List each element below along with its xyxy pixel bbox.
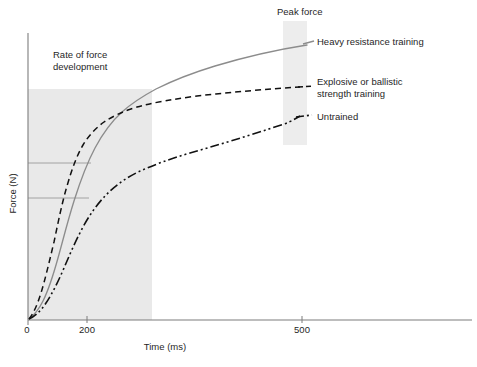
x-tick-label-200: 200 — [77, 324, 97, 335]
peak-force-annotation: Peak force — [277, 6, 322, 18]
peak-force-band — [283, 21, 307, 145]
figure-caption-fragment — [6, 352, 206, 362]
rfd-band — [28, 89, 152, 320]
x-axis-title: Time (ms) — [0, 341, 330, 352]
y-axis-title: Force (N) — [7, 164, 18, 224]
rate-of-force-development-annotation: Rate of force development — [53, 49, 107, 72]
x-tick-label-0: 0 — [17, 324, 37, 335]
force-time-curve-figure: Peak force Rate of force development Hea… — [0, 0, 477, 367]
x-tick-label-500: 500 — [292, 324, 312, 335]
legend-item-explosive-ballistic-strength-training: Explosive or ballistic strength training — [317, 76, 403, 99]
legend-item-heavy-resistance-training: Heavy resistance training — [317, 36, 424, 48]
legend-item-untrained: Untrained — [317, 111, 358, 123]
